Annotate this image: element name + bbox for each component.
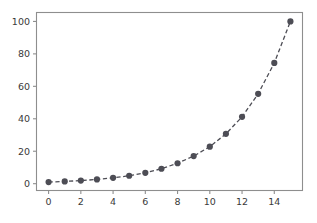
data-point-marker [158,166,164,172]
data-point-marker [94,176,100,182]
y-tick-label: 0 [24,178,30,189]
plot-area-border [37,13,303,191]
data-point-marker [126,173,132,179]
data-point-marker [223,131,229,137]
data-point-marker [255,91,261,97]
series-lines [49,21,291,182]
x-tick-label: 8 [175,196,181,207]
x-tick-label: 10 [204,196,216,207]
x-tick-label: 2 [78,196,84,207]
x-tick-label: 0 [46,196,52,207]
axes-spines [37,13,303,191]
data-point-marker [207,144,213,150]
data-point-marker [191,153,197,159]
data-point-marker [62,178,68,184]
y-tick-label: 60 [18,81,30,92]
y-tick-label: 80 [18,48,30,59]
data-point-marker [78,178,84,184]
data-point-marker [174,160,180,166]
x-axis-tick-labels: 02468101214 [46,196,281,207]
chart-figure: 02468101214 020406080100 [0,0,317,223]
data-point-marker [142,170,148,176]
data-point-marker [45,179,51,185]
y-tick-label: 20 [18,146,30,157]
x-tick-label: 6 [142,196,148,207]
series-markers [45,18,293,185]
y-axis-tick-labels: 020406080100 [12,16,30,189]
data-point-marker [271,60,277,66]
exponential-line-chart: 02468101214 020406080100 [0,0,317,223]
x-tick-label: 12 [236,196,248,207]
x-tick-label: 14 [268,196,280,207]
data-point-marker [239,114,245,120]
data-point-marker [287,18,293,24]
x-tick-label: 4 [110,196,116,207]
y-tick-label: 40 [18,113,30,124]
y-tick-label: 100 [12,16,30,27]
series-line-series-1 [49,21,291,182]
data-point-marker [110,175,116,181]
